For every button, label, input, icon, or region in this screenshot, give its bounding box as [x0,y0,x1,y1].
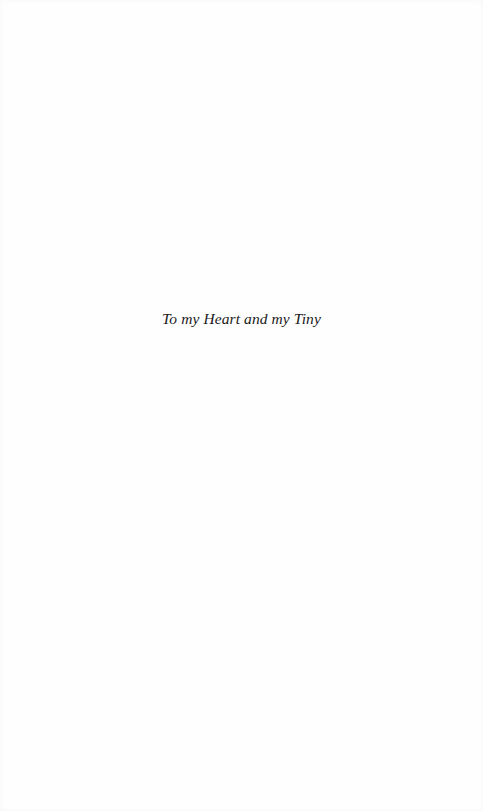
dedication-text: To my Heart and my Tiny [0,308,483,330]
book-page: To my Heart and my Tiny [0,0,483,811]
